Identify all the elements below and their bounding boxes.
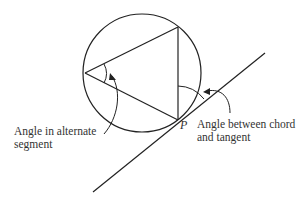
- arrowhead-icon: [203, 88, 210, 95]
- chord-left-top: [85, 27, 178, 73]
- point-p-label: P: [180, 118, 187, 133]
- label-alternate-line2: segment: [14, 138, 96, 151]
- arrowhead-icon: [109, 73, 116, 80]
- angle-arc-chord-tangent: [178, 86, 204, 99]
- arrow-chord-tangent: [207, 90, 230, 113]
- label-alternate-line1: Angle in alternate: [14, 125, 96, 138]
- label-chord-line1: Angle between chord: [197, 118, 295, 131]
- label-chord-line2: and tangent: [197, 131, 295, 144]
- label-alternate-segment: Angle in alternate segment: [14, 125, 96, 151]
- alternate-segment-diagram: [0, 0, 308, 202]
- angle-arc-alternate-segment: [104, 64, 106, 83]
- circle: [83, 14, 201, 132]
- label-chord-tangent: Angle between chord and tangent: [197, 118, 295, 144]
